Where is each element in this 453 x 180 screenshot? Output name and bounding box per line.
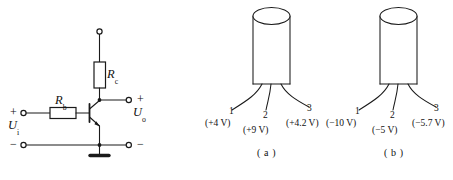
package-b-top-ellipse [380,8,417,25]
resistor-rc-symbol: R [107,67,115,81]
output-voltage-symbol: U [133,105,142,119]
package-b-pin-1-number: 1 [355,107,360,117]
input-plus-terminal [21,110,26,115]
package-b-pin-3-number: 3 [434,104,439,114]
supply-terminal-node [97,29,102,34]
package-a-pin-3-number: 3 [307,104,312,114]
input-voltage-label: Ui [8,119,19,134]
package-b-lead-3 [408,84,436,107]
output-minus-terminal [126,142,131,147]
package-a-caption: ( a ) [257,148,276,158]
figure-canvas: + − Ui Uo + − Rb Rc 1 (+4 V) 2 (+9 V) 3 … [0,0,453,180]
output-voltage-label: Uo [133,106,146,121]
package-a-pin-1-number: 1 [229,107,234,117]
package-a-top-ellipse [253,8,290,25]
resistor-rb-symbol: R [55,93,63,107]
output-plus-terminal [126,97,131,102]
package-a-pin-3-voltage: (+4.2 V) [286,119,319,129]
package-a-pin-2-number: 2 [263,111,268,121]
transistor-collector-lead [90,101,100,110]
package-a-pin-1-voltage: (+4 V) [205,119,231,129]
package-b-pin-2-voltage: (−5 V) [372,126,398,136]
input-plus-sign: + [10,106,17,118]
package-a-lead-1 [232,84,262,110]
package-a-lead-3 [281,84,309,107]
output-minus-sign: − [137,138,144,150]
resistor-rb-subscript: b [63,103,67,112]
input-voltage-subscript: i [17,128,19,137]
transistor-package-b [359,8,436,111]
package-b-caption: ( b ) [384,148,404,158]
package-a-pin-2-voltage: (+9 V) [243,126,269,136]
input-minus-terminal [21,142,26,147]
resistor-rc-label: Rc [107,68,118,83]
input-minus-sign: − [10,138,17,150]
resistor-rc-body [94,62,106,88]
resistor-rb-label: Rb [55,94,67,109]
resistor-rc-subscript: c [115,77,118,86]
package-a-lead-2 [266,84,271,110]
output-plus-sign: + [137,93,144,105]
package-b-pin-1-voltage: (−10 V) [326,119,356,129]
input-voltage-symbol: U [8,118,17,132]
package-b-lead-1 [359,84,389,110]
transistor-package-a [232,8,309,111]
circuit-schematic [21,29,132,156]
package-b-pin-2-number: 2 [390,111,395,121]
package-b-lead-2 [393,84,398,110]
package-b-pin-3-voltage: (−5.7 V) [412,119,445,129]
output-voltage-subscript: o [142,115,146,124]
